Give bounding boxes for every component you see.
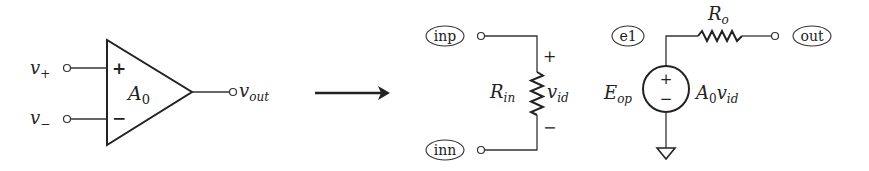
gain-label: A0 [126,82,150,107]
input-model: inp inn + − Rin vid [426,26,569,160]
output-model: e1 out Ro + − Eop A0vid [603,3,831,159]
node-out-label: out [800,28,823,44]
inn-terminal [478,147,485,154]
node-inn-label: inn [434,142,457,158]
vid-plus: + [543,47,556,66]
source-value-label: A0vid [694,82,739,106]
minus-terminal [64,116,71,123]
eop-label: Eop [603,82,632,106]
node-e1-label: e1 [619,28,636,44]
source-plus: + [660,70,673,88]
vid-minus: − [543,118,556,137]
opamp-symbol: + − v+ v− A0 vout [30,40,269,145]
opamp-model-diagram: + − v+ v− A0 vout inp inn + − Rin vid [0,0,869,171]
diagram-svg: + − v+ v− A0 vout inp inn + − Rin vid [0,0,869,171]
right-arrow-icon [315,86,390,100]
v-minus-label: v− [30,107,50,131]
ro-label: Ro [707,3,729,27]
plus-sign: + [112,58,126,78]
node-inp-label: inp [434,28,456,44]
ground-icon [657,148,675,159]
inp-terminal [478,33,485,40]
rin-label: Rin [489,81,515,105]
source-minus: − [660,90,673,108]
out-terminal [772,33,779,40]
v-out-label: vout [239,80,269,104]
vid-label: vid [547,81,569,105]
rin-resistor [531,72,543,115]
ro-resistor [698,31,742,41]
v-plus-label: v+ [30,57,50,81]
plus-terminal [64,65,71,72]
minus-sign: − [112,108,126,128]
output-terminal [230,89,237,96]
